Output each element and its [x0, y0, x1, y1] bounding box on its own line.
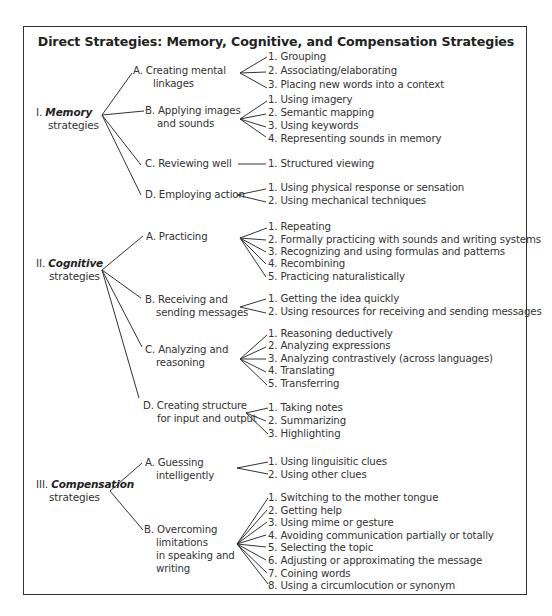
list-item: 2. Using other clues [268, 469, 367, 482]
list-item: 7. Coining words [268, 568, 351, 581]
category-memory: I. Memory [36, 106, 92, 119]
group-label: D. Creating structure [143, 400, 247, 413]
group-label: B. Overcoming [144, 524, 217, 537]
list-item: 3. Using keywords [268, 120, 358, 133]
list-item: 2. Semantic mapping [268, 107, 374, 120]
list-item: 5. Transferring [268, 378, 339, 391]
group-label: A. Creating mental [133, 65, 226, 78]
list-item: 2. Summarizing [268, 415, 346, 428]
category-compensation: III. Compensation [36, 478, 134, 491]
list-item: 2. Using resources for receiving and sen… [268, 306, 542, 319]
group-label: and sounds [157, 118, 214, 131]
group-label: in speaking and [156, 550, 235, 563]
list-item: 4. Representing sounds in memory [268, 133, 441, 146]
list-item: 2. Getting help [268, 505, 342, 518]
list-item: 5. Practicing naturalistically [268, 271, 405, 284]
list-item: 4. Recombining [268, 258, 345, 271]
list-item: 1. Switching to the mother tongue [268, 492, 438, 505]
group-label: A. Guessing [145, 457, 204, 470]
diagram-title: Direct Strategies: Memory, Cognitive, an… [0, 34, 552, 49]
group-label: linkages [153, 78, 194, 91]
group-label: C. Reviewing well [145, 158, 232, 171]
group-label: reasoning [156, 357, 205, 370]
group-label: sending messages [156, 307, 248, 320]
group-label: B. Receiving and [145, 294, 228, 307]
list-item: 1. Taking notes [268, 402, 343, 415]
list-item: 2. Using mechanical techniques [268, 195, 426, 208]
list-item: 2. Analyzing expressions [268, 340, 391, 353]
list-item: 1. Using physical response or sensation [268, 182, 464, 195]
group-label: intelligently [156, 470, 214, 483]
list-item: 1. Grouping [268, 51, 326, 64]
list-item: 1. Getting the idea quickly [268, 293, 399, 306]
list-item: 3. Analyzing contrastively (across langu… [268, 353, 493, 366]
list-item: 1. Using linguisitic clues [268, 456, 387, 469]
list-item: 1. Reasoning deductively [268, 328, 393, 341]
group-label: B. Applying images [145, 105, 241, 118]
list-item: 6. Adjusting or approximating the messag… [268, 555, 482, 568]
list-item: 3. Highlighting [268, 428, 340, 441]
group-label: C. Analyzing and [145, 344, 228, 357]
group-label: A. Practicing [146, 231, 208, 244]
group-label: for input and output [157, 413, 257, 426]
category-suffix: strategies [49, 491, 100, 504]
list-item: 3. Recognizing and using formulas and pa… [268, 246, 505, 259]
category-name: Memory [45, 106, 92, 118]
category-cognitive: II. Cognitive [36, 257, 103, 270]
list-item: 2. Formally practicing with sounds and w… [268, 234, 541, 247]
list-item: 5. Selecting the topic [268, 542, 373, 555]
list-item: 1. Structured viewing [268, 158, 374, 171]
list-item: 1. Using imagery [268, 94, 352, 107]
group-label: D. Employing action [145, 189, 245, 202]
list-item: 4. Translating [268, 365, 335, 378]
list-item: 2. Associating/elaborating [268, 65, 397, 78]
category-suffix: strategies [49, 270, 100, 283]
group-label: limitations [156, 537, 208, 550]
group-label: writing [156, 563, 190, 576]
category-name: Compensation [51, 478, 134, 490]
category-suffix: strategies [48, 119, 99, 132]
list-item: 3. Placing new words into a context [268, 79, 444, 92]
list-item: 8. Using a circumlocution or synonym [268, 580, 455, 593]
list-item: 4. Avoiding communication partially or t… [268, 530, 494, 543]
category-name: Cognitive [48, 257, 103, 269]
list-item: 3. Using mime or gesture [268, 517, 394, 530]
list-item: 1. Repeating [268, 221, 331, 234]
